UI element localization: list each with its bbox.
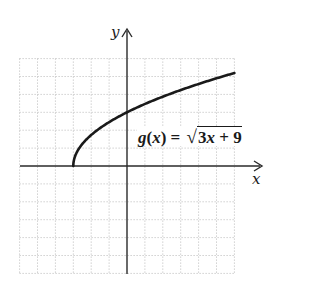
eq-variable: x xyxy=(152,128,161,147)
function-curve xyxy=(73,73,234,166)
x-axis-label: x xyxy=(252,172,260,187)
eq-radicand-var: x xyxy=(206,128,215,147)
eq-close-equals: ) = xyxy=(161,128,185,147)
y-axis-label: y xyxy=(111,25,119,40)
eq-rest: + 9 xyxy=(215,128,242,147)
radical-icon: √ xyxy=(187,126,197,147)
eq-func-name: g xyxy=(138,128,147,147)
eq-radicand: 3x + 9 xyxy=(197,126,242,147)
equation-label: g(x) = √3x + 9 xyxy=(137,127,243,146)
